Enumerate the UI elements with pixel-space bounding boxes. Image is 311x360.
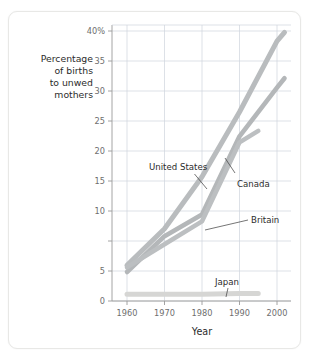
y-axis-title-line: mothers [54,89,93,100]
y-tick-label: 35 [95,56,105,66]
y-axis-title-line: to unwed [50,77,93,88]
annotation-canada: Canada [237,179,270,189]
y-tick-label: 25 [95,116,105,126]
leader-britain [205,220,248,230]
y-tick-label: 10 [95,206,105,216]
chart-svg: 40% 35 30 25 20 15 10 5 0 1960 1970 1980… [9,12,302,350]
y-tick-label: 20 [95,146,105,156]
y-axis-title-line: Percentage [41,53,94,64]
series-line-japan [127,294,258,295]
y-tick-label: 0 [100,296,105,306]
line-chart-figure: 40% 35 30 25 20 15 10 5 0 1960 1970 1980… [9,12,302,350]
y-tick-label: 15 [95,176,105,186]
x-axis-title: Year [191,326,212,337]
y-tick-marks [108,31,112,301]
chart-card: 40% 35 30 25 20 15 10 5 0 1960 1970 1980… [8,11,301,349]
y-tick-label: 5 [100,266,105,276]
x-tick-label: 1960 [117,308,138,318]
y-tick-label: 40% [87,26,105,36]
annotation-britain: Britain [251,215,279,225]
x-tick-label: 1980 [192,308,213,318]
x-tick-label: 1990 [229,308,250,318]
annotation-japan: Japan [214,277,239,287]
y-axis-title-line: of births [54,65,93,76]
y-axis-title: Percentage of births to unwed mothers [41,53,94,100]
x-tick-label: 1970 [154,308,175,318]
y-tick-label: 30 [95,86,105,96]
x-tick-label: 2000 [267,308,288,318]
series-line-united-states [127,32,285,265]
annotation-united-states: United States [149,162,208,172]
x-tick-marks [127,301,277,305]
